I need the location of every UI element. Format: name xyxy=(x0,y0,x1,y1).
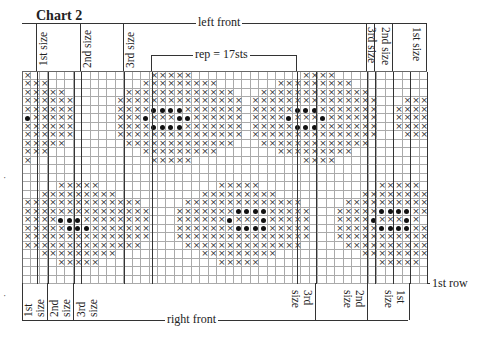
grid-right-border xyxy=(427,72,428,284)
chart-cell xyxy=(394,89,402,97)
chart-cell: × xyxy=(285,242,293,250)
chart-cell xyxy=(141,242,149,250)
chart-cell: × xyxy=(183,157,191,165)
chart-cell xyxy=(251,165,259,173)
chart-cell: × xyxy=(23,157,31,165)
chart-cell xyxy=(99,140,107,148)
chart-cell: × xyxy=(133,242,141,250)
chart-cell xyxy=(65,80,73,88)
chart-cell xyxy=(107,97,115,105)
chart-cell xyxy=(242,267,250,275)
chart-cell xyxy=(268,72,276,80)
chart-cell xyxy=(141,174,149,182)
chart-cell xyxy=(234,148,242,156)
chart-cell xyxy=(158,165,166,173)
chart-cell xyxy=(377,148,385,156)
chart-cell xyxy=(91,165,99,173)
chart-cell xyxy=(301,259,309,267)
chart-cell: × xyxy=(209,148,217,156)
chart-cell xyxy=(99,131,107,139)
chart-cell xyxy=(48,174,56,182)
chart-cell xyxy=(82,72,90,80)
chart-cell xyxy=(133,182,141,190)
chart-cell xyxy=(251,80,259,88)
chart-cell xyxy=(150,233,158,241)
chart-cell xyxy=(259,148,267,156)
chart-cell: × xyxy=(192,242,200,250)
chart-cell xyxy=(99,72,107,80)
chart-cell xyxy=(226,276,234,284)
chart-cell: × xyxy=(242,216,250,224)
chart-cell: × xyxy=(301,157,309,165)
chart-cell: × xyxy=(57,140,65,148)
chart-cell xyxy=(226,267,234,275)
chart-cell xyxy=(327,174,335,182)
chart-cell xyxy=(394,165,402,173)
chart-cell xyxy=(31,182,39,190)
cross-stitch-icon: × xyxy=(142,105,150,114)
chart-cell: × xyxy=(183,106,191,114)
chart-cell xyxy=(242,114,250,122)
chart-cell xyxy=(65,267,73,275)
chart-cell xyxy=(133,157,141,165)
chart-cell xyxy=(116,80,124,88)
chart-cell: × xyxy=(394,123,402,131)
chart-cell xyxy=(166,242,174,250)
chart-cell xyxy=(377,80,385,88)
chart-cell xyxy=(200,165,208,173)
chart-cell: × xyxy=(394,216,402,224)
cross-stitch-icon: × xyxy=(353,139,361,148)
chart-title: Chart 2 xyxy=(36,8,82,24)
chart-cell xyxy=(285,267,293,275)
cross-stitch-icon: × xyxy=(370,249,378,258)
chart-cell: × xyxy=(150,97,158,105)
chart-cell xyxy=(301,174,309,182)
chart-cell xyxy=(82,114,90,122)
chart-cell xyxy=(91,140,99,148)
chart-cell xyxy=(276,165,284,173)
chart-cell xyxy=(377,106,385,114)
chart-cell: × xyxy=(31,242,39,250)
chart-cell: × xyxy=(242,259,250,267)
chart-cell xyxy=(259,216,267,224)
chart-cell xyxy=(344,276,352,284)
chart-cell xyxy=(158,225,166,233)
chart-cell xyxy=(91,106,99,114)
chart-cell xyxy=(175,259,183,267)
chart-cell: × xyxy=(107,250,115,258)
bottom-size-label-3rd-left: 3rd size xyxy=(76,287,99,317)
chart-cell xyxy=(352,182,360,190)
bottom-size-label-3rd-right: 3rd size xyxy=(290,290,313,320)
chart-cell xyxy=(133,250,141,258)
chart-cell xyxy=(318,250,326,258)
chart-cell xyxy=(327,216,335,224)
chart-cell xyxy=(200,259,208,267)
cross-stitch-icon: × xyxy=(134,139,142,148)
chart-cell xyxy=(141,276,149,284)
chart-cell xyxy=(276,174,284,182)
chart-cell xyxy=(285,182,293,190)
chart-cell: × xyxy=(141,148,149,156)
chart-cell xyxy=(209,157,217,165)
chart-cell xyxy=(285,276,293,284)
chart-cell xyxy=(150,216,158,224)
cross-stitch-icon: × xyxy=(252,258,260,267)
chart-cell xyxy=(166,165,174,173)
top-size-label-3rd-right: 3rd size xyxy=(366,27,378,63)
chart-cell xyxy=(327,233,335,241)
chart-cell xyxy=(327,199,335,207)
chart-cell xyxy=(226,72,234,80)
chart-cell xyxy=(166,182,174,190)
chart-cell xyxy=(91,72,99,80)
chart-cell xyxy=(82,106,90,114)
chart-cell xyxy=(23,174,31,182)
chart-cell xyxy=(318,165,326,173)
cross-stitch-icon: × xyxy=(58,207,66,216)
margin-tick: · xyxy=(3,172,6,183)
chart-cell xyxy=(310,267,318,275)
chart-cell xyxy=(99,276,107,284)
chart-cell: × xyxy=(394,199,402,207)
chart-cell xyxy=(133,174,141,182)
chart-cell: × xyxy=(150,114,158,122)
chart-cell xyxy=(150,208,158,216)
